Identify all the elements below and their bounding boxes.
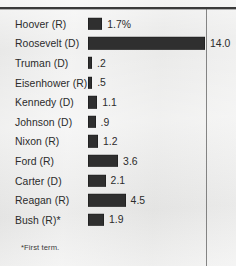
bar-value-label: 1.7% (107, 18, 131, 29)
bar-row: Hoover (R)1.7% (0, 14, 236, 34)
bar-row-label: Kennedy (D) (15, 97, 74, 108)
bar-value-label: 2.1 (111, 175, 126, 186)
bar-value-label: 4.5 (131, 195, 146, 206)
bar-mark (88, 194, 126, 207)
bar-row: Roosevelt (D)14.0 (0, 34, 236, 54)
bar-track: 14.0 (88, 37, 230, 50)
bar-mark (88, 213, 104, 226)
bar-value-label: .5 (97, 77, 106, 88)
bar-value-label: 3.6 (123, 155, 138, 166)
bar-row: Bush (R)*1.9 (0, 210, 236, 230)
bar-row-list: Hoover (R)1.7%Roosevelt (D)14.0Truman (D… (0, 14, 236, 230)
bar-mark (88, 76, 92, 89)
bar-track: 1.2 (88, 135, 118, 148)
bar-track: .2 (88, 57, 106, 70)
bar-row-label: Roosevelt (D) (15, 38, 79, 49)
bar-row: Ford (R)3.6 (0, 151, 236, 171)
bar-value-label: 1.1 (102, 97, 117, 108)
bar-row-label: Eisenhower (R) (15, 77, 87, 88)
bar-value-label: .9 (101, 116, 110, 127)
bar-row: Johnson (D).9 (0, 112, 236, 132)
bar-row: Truman (D).2 (0, 53, 236, 73)
bar-row-label: Bush (R)* (15, 214, 61, 225)
bar-chart-figure: Hoover (R)1.7%Roosevelt (D)14.0Truman (D… (0, 0, 236, 266)
bar-value-label: 1.9 (109, 214, 124, 225)
bar-row-label: Reagan (R) (15, 195, 69, 206)
bar-mark (88, 174, 106, 187)
bar-row-label: Hoover (R) (15, 18, 66, 29)
bar-value-label: 1.2 (103, 136, 118, 147)
bar-mark (88, 135, 98, 148)
bar-track: 1.1 (88, 96, 117, 109)
bar-track: 1.9 (88, 213, 123, 226)
bar-track: 4.5 (88, 194, 145, 207)
bar-mark (88, 37, 205, 50)
bar-row: Nixon (R)1.2 (0, 132, 236, 152)
bar-track: .9 (88, 116, 109, 129)
bar-track: 2.1 (88, 174, 125, 187)
bar-mark (88, 18, 102, 31)
bar-row: Carter (D)2.1 (0, 171, 236, 191)
bar-track: .5 (88, 76, 106, 89)
bar-mark (88, 96, 97, 109)
bar-row: Eisenhower (R).5 (0, 73, 236, 93)
bar-value-label: 14.0 (210, 38, 230, 49)
bar-row-label: Carter (D) (15, 175, 62, 186)
bar-row-label: Nixon (R) (15, 136, 59, 147)
footnote-text: *First term. (21, 243, 59, 252)
bar-row: Reagan (R)4.5 (0, 190, 236, 210)
bar-mark (88, 155, 118, 168)
bar-value-label: .2 (97, 57, 106, 68)
bar-row-label: Ford (R) (15, 155, 54, 166)
bar-mark (88, 116, 96, 129)
bar-row-label: Truman (D) (15, 57, 68, 68)
bar-row: Kennedy (D)1.1 (0, 92, 236, 112)
bar-mark (88, 57, 92, 70)
bar-track: 1.7% (88, 18, 131, 31)
bar-row-label: Johnson (D) (15, 116, 72, 127)
top-divider-hairline (0, 9, 236, 10)
bar-track: 3.6 (88, 155, 138, 168)
